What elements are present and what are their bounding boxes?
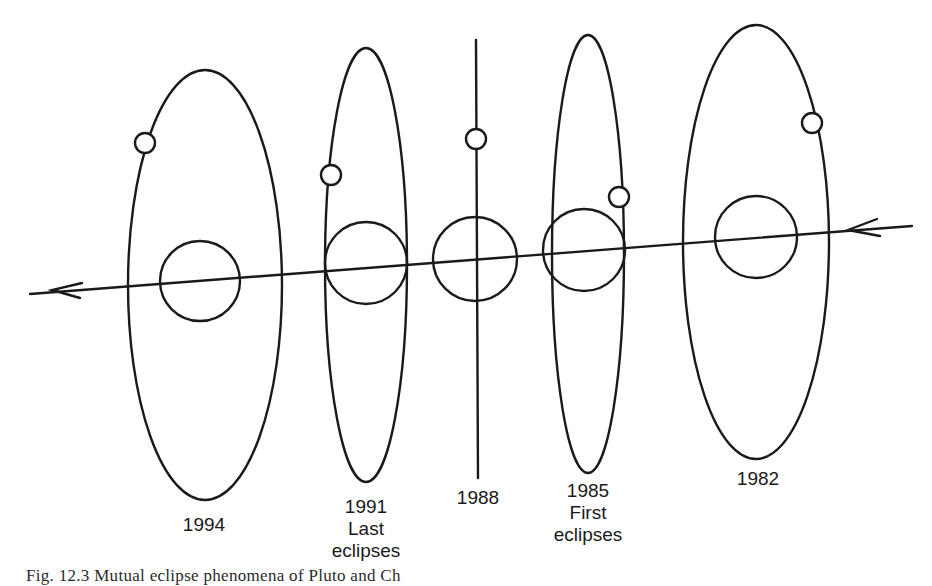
charon-1994 [135,133,155,153]
label-1994: 1994 [144,514,264,536]
pluto-path-line [30,226,912,294]
year-label: 1982 [698,468,818,490]
charon-1991 [321,165,341,185]
note-label: eclipses [528,524,648,546]
charon-1988 [466,129,486,149]
arrow-left-icon [848,219,880,236]
note-label: First [528,502,648,524]
charon-1985 [609,187,629,207]
note-label: eclipses [306,540,426,562]
label-1991: 1991 Last eclipses [306,496,426,562]
note-label: Last [306,518,426,540]
year-label: 1991 [306,496,426,518]
pluto-disk-1991 [325,222,407,304]
label-1985: 1985 First eclipses [528,480,648,546]
label-1982: 1982 [698,468,818,490]
figure-caption: Fig. 12.3 Mutual eclipse phenomena of Pl… [26,566,401,586]
label-1988: 1988 [418,487,538,509]
year-label: 1988 [418,487,538,509]
charon-1982 [802,113,822,133]
year-label: 1985 [528,480,648,502]
year-label: 1994 [144,514,264,536]
